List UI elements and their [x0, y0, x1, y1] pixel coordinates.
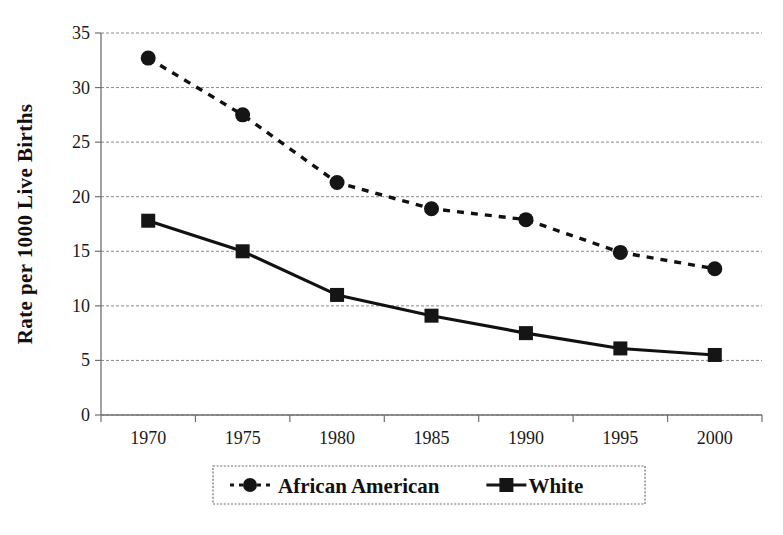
data-point-marker — [141, 51, 156, 66]
data-point-marker — [330, 288, 344, 302]
x-tick-label: 1990 — [508, 428, 544, 448]
data-point-marker — [236, 244, 250, 258]
plot-background — [0, 0, 783, 535]
x-tick-label: 2000 — [697, 428, 733, 448]
legend-label: White — [528, 474, 583, 498]
chart-figure: 05101520253035 1970197519801985199019952… — [0, 0, 783, 535]
y-axis-title: Rate per 1000 Live Births — [13, 104, 37, 345]
y-tick-label: 30 — [72, 78, 90, 98]
data-point-marker — [707, 261, 722, 276]
data-point-marker — [330, 175, 345, 190]
y-tick-label: 35 — [72, 23, 90, 43]
x-tick-label: 1980 — [319, 428, 355, 448]
data-point-marker — [613, 341, 627, 355]
x-tick-label: 1975 — [225, 428, 261, 448]
legend-square-icon — [499, 478, 513, 492]
x-tick-label: 1970 — [130, 428, 166, 448]
data-point-marker — [235, 107, 250, 122]
data-point-marker — [141, 214, 155, 228]
y-tick-label: 0 — [81, 405, 90, 425]
data-point-marker — [708, 348, 722, 362]
legend-circle-icon — [243, 478, 257, 492]
legend-label: African American — [278, 474, 440, 498]
y-tick-label: 20 — [72, 187, 90, 207]
x-tick-label: 1995 — [602, 428, 638, 448]
data-point-marker — [519, 326, 533, 340]
data-point-marker — [425, 309, 439, 323]
y-tick-label: 15 — [72, 241, 90, 261]
y-tick-label: 10 — [72, 296, 90, 316]
y-tick-label: 5 — [81, 350, 90, 370]
data-point-marker — [518, 212, 533, 227]
x-tick-label: 1985 — [414, 428, 450, 448]
data-point-marker — [613, 245, 628, 260]
legend-items: African AmericanWhite — [230, 474, 583, 498]
line-chart: 05101520253035 1970197519801985199019952… — [0, 0, 783, 535]
y-tick-label: 25 — [72, 132, 90, 152]
data-point-marker — [424, 201, 439, 216]
